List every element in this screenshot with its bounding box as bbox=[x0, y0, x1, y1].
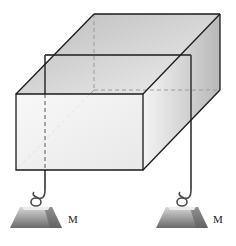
mass-left-label: M bbox=[68, 213, 78, 225]
box-front-face bbox=[16, 94, 143, 170]
ring-right bbox=[177, 198, 187, 206]
box bbox=[16, 14, 220, 190]
hook-right bbox=[179, 190, 191, 198]
hook-left bbox=[33, 190, 45, 198]
weight-right-top bbox=[168, 207, 196, 210]
weight-left-top bbox=[22, 207, 50, 210]
mass-right bbox=[156, 190, 208, 228]
mass-right-label: M bbox=[213, 213, 223, 225]
ring-left bbox=[31, 198, 41, 206]
diagram-canvas bbox=[0, 0, 236, 246]
mass-left bbox=[10, 190, 62, 228]
